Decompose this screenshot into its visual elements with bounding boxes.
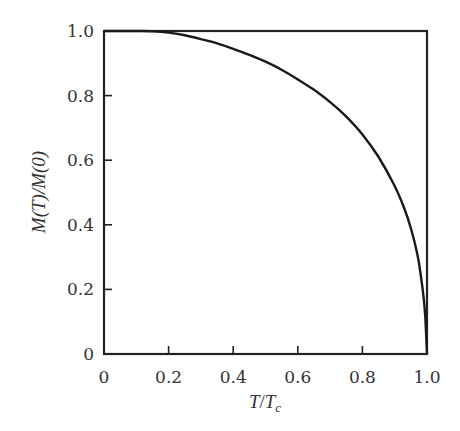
x-tick-label: 0 <box>99 367 110 387</box>
magnetization-curve <box>104 31 427 354</box>
y-axis-ticks: 00.20.40.60.81.0 <box>67 21 112 364</box>
y-axis-label: M(T)/M(0) <box>28 151 50 234</box>
x-tick-label: 1.0 <box>413 367 440 387</box>
axes-box <box>104 31 427 354</box>
series-line <box>104 31 427 354</box>
plot-frame <box>104 31 427 354</box>
y-tick-label: 0 <box>83 344 94 364</box>
y-tick-label: 0.4 <box>67 215 94 235</box>
x-tick-label: 0.4 <box>220 367 247 387</box>
x-axis-label: T/Tc <box>249 391 281 415</box>
x-tick-label: 0.6 <box>284 367 311 387</box>
y-tick-label: 0.2 <box>67 279 94 299</box>
y-tick-label: 1.0 <box>67 21 94 41</box>
x-tick-label: 0.8 <box>349 367 376 387</box>
y-tick-label: 0.6 <box>67 150 94 170</box>
x-tick-label: 0.2 <box>155 367 182 387</box>
chart: 00.20.40.60.81.0 00.20.40.60.81.0 T/Tc M… <box>0 0 460 431</box>
x-axis-ticks: 00.20.40.60.81.0 <box>99 346 441 387</box>
y-tick-label: 0.8 <box>67 86 94 106</box>
